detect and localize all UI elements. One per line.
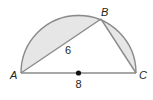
- label-length-ab: 6: [65, 44, 71, 56]
- label-point-c: C: [139, 69, 147, 81]
- label-point-a: A: [9, 69, 17, 81]
- center-point: [76, 70, 81, 75]
- geometry-diagram: A B C 6 8: [0, 0, 153, 100]
- label-length-ac: 8: [76, 78, 82, 90]
- chord-bc: [101, 19, 136, 73]
- label-point-b: B: [101, 6, 108, 18]
